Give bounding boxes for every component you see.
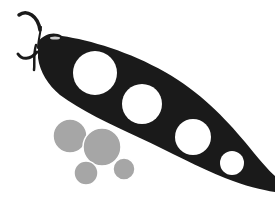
loose-pea-1 [53,119,87,153]
pod-hole-1 [73,51,117,95]
pod-hole-2 [122,84,162,124]
loose-pea-2 [83,128,121,166]
loose-pea-4 [113,158,135,180]
pea-pod-illustration [0,0,275,199]
pod-hole-4 [220,151,244,175]
pod-hole-3 [175,119,211,155]
loose-pea-3 [74,161,98,185]
stem-tendrils-icon [18,13,41,70]
pod-head-highlight [50,37,60,40]
